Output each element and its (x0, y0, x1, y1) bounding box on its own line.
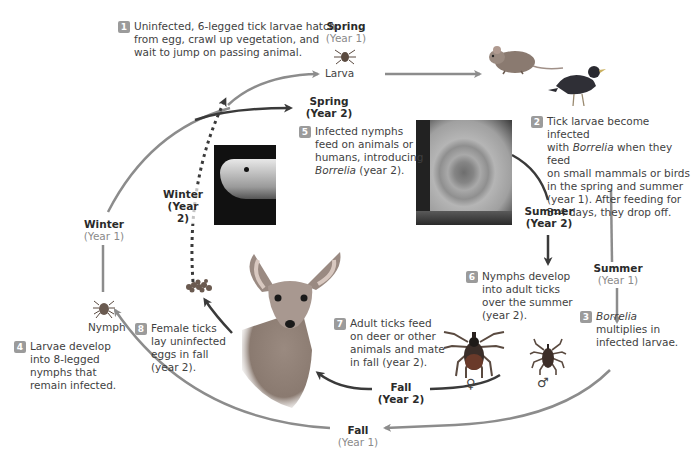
step-badge: 1 (118, 21, 130, 33)
season-fall-year2: Fall (Year 2) (370, 381, 432, 405)
season-fall-year1: Fall (Year 1) (330, 424, 386, 448)
step-badge: 2 (531, 116, 543, 128)
nymph-label: Nymph (88, 321, 126, 333)
season-summer-year2: Summer (Year 2) (518, 205, 580, 229)
step-badge: 4 (14, 341, 26, 353)
nymph-tick-icon (93, 298, 115, 318)
male-adult-tick (528, 338, 568, 376)
tick-eggs-illustration (184, 277, 214, 293)
bullseye-rash-photo (416, 120, 512, 225)
step-1: 1 Uninfected, 6-legged tick larvae hatch… (118, 20, 348, 33)
step-badge: 5 (299, 126, 311, 138)
season-spring-year2: Spring (Year 2) (300, 95, 358, 119)
female-adult-tick (442, 322, 506, 378)
larva-label: Larva (325, 67, 354, 79)
season-summer-year1: Summer (Year 1) (588, 262, 648, 286)
season-winter-year1: Winter (Year 1) (78, 218, 130, 242)
step-6: 6 Nymphs develop into adult ticks over t… (466, 270, 586, 283)
bird-illustration (546, 56, 606, 108)
step-2: 2 Tick larvae become infected with Borre… (531, 115, 691, 128)
male-symbol: ♂ (537, 375, 549, 390)
step-badge: 3 (580, 311, 592, 323)
step-3: 3 Borrelia multiplies in infected larvae… (580, 310, 690, 323)
step-5: 5 Infected nymphs feed on animals or hum… (299, 125, 424, 138)
step-7: 7 Adult ticks feed on deer or other anim… (334, 317, 454, 330)
step-badge: 6 (466, 271, 478, 283)
female-symbol: ♀ (466, 376, 476, 391)
step-8: 8 Female ticks lay uninfected eggs in fa… (135, 322, 235, 335)
season-spring-year1: Spring (Year 1) (320, 20, 372, 44)
larva-tick-icon (333, 47, 357, 65)
season-winter-year2: Winter (Year 2) (160, 188, 206, 224)
step-badge: 8 (135, 323, 147, 335)
deer-illustration (232, 250, 342, 410)
tick-on-finger-photo (214, 145, 276, 225)
step-4: 4 Larvae develop into 8-legged nymphs th… (14, 340, 124, 353)
arrow-rash-to-summer2 (512, 155, 548, 200)
